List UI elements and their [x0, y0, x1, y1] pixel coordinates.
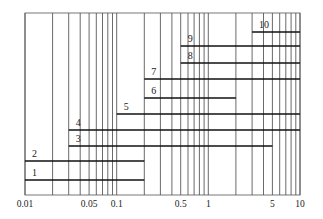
x-tick-label: 1	[206, 199, 211, 209]
range-bar-label: 1	[32, 167, 37, 178]
range-bar-label: 8	[188, 50, 193, 61]
range-bar-label: 7	[151, 66, 156, 77]
x-tick-label: 0.05	[81, 199, 98, 209]
x-tick-label: 5	[270, 199, 275, 209]
range-bar-label: 10	[259, 19, 269, 30]
x-tick-label: 0.5	[175, 199, 187, 209]
range-bar-label: 6	[151, 85, 156, 96]
range-bar-label: 9	[188, 33, 193, 44]
plot-frame	[25, 13, 300, 195]
x-tick-label: 0.1	[111, 199, 123, 209]
x-axis-tick-labels: 0.010.050.10.51510	[17, 199, 305, 209]
x-tick-label: 0.01	[17, 199, 34, 209]
range-bar-label: 5	[124, 101, 129, 112]
range-bars: 12345678910	[25, 19, 300, 180]
gridlines	[25, 13, 300, 195]
range-bar-label: 4	[76, 117, 81, 128]
x-tick-label: 10	[295, 199, 305, 209]
range-bar-label: 2	[32, 148, 37, 159]
range-chart: 12345678910 0.010.050.10.51510	[0, 0, 323, 219]
range-bar-label: 3	[76, 133, 81, 144]
